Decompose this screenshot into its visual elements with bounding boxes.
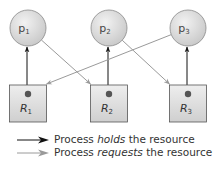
resource-box: [170, 85, 207, 122]
legend: Process holds the resource Process reque…: [16, 133, 212, 159]
resource-node-R2: R2: [91, 85, 128, 122]
resource-instance-dot: [185, 91, 191, 97]
legend-label-holds: Process holds the resource: [54, 133, 195, 146]
legend-label-requests: Process requests the resource: [54, 146, 212, 159]
edge-requests-p1-R2: [41, 40, 90, 84]
resource-box: [91, 85, 128, 122]
black-arrow-icon: [16, 135, 50, 145]
resource-box: [10, 85, 47, 122]
resource-node-R3: R3: [170, 85, 207, 122]
legend-item-holds: Process holds the resource: [16, 133, 212, 146]
process-node-p2: p2: [91, 10, 127, 46]
gray-arrow-icon: [16, 148, 50, 158]
legend-item-requests: Process requests the resource: [16, 146, 212, 159]
resource-allocation-graph: p1p2p3R1R2R3: [0, 0, 214, 130]
process-node-p3: p3: [170, 10, 206, 46]
resource-instance-dot: [106, 91, 112, 97]
resource-node-R1: R1: [10, 85, 47, 122]
resource-instance-dot: [25, 91, 31, 97]
process-node-p1: p1: [10, 10, 46, 46]
edge-requests-p2-R3: [122, 40, 169, 84]
